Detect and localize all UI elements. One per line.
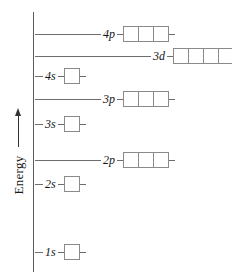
orbital-box [153, 91, 169, 107]
energy-level-4p: 4p [35, 25, 175, 43]
box-connector-right [169, 160, 175, 161]
orbital-box-group-3p [123, 91, 169, 107]
orbital-box [64, 176, 80, 192]
level-leader-line [35, 76, 43, 77]
box-connector-right [80, 124, 86, 125]
orbital-box [153, 26, 169, 42]
orbital-box [64, 68, 80, 84]
orbital-box-group-3s [64, 116, 80, 132]
level-label: 2p [101, 154, 117, 166]
orbital-box-group-3d [173, 48, 232, 64]
level-leader-line [35, 56, 151, 57]
orbital-energy-diagram: Energy 1s2s2p3s3p4s3d4p [0, 0, 232, 278]
energy-axis-label-group: Energy [5, 105, 33, 210]
orbital-box [173, 48, 189, 64]
level-label: 3p [101, 93, 117, 105]
box-connector-right [80, 76, 86, 77]
energy-level-4s: 4s [35, 67, 86, 85]
orbital-box [218, 48, 232, 64]
level-label: 2s [43, 178, 58, 190]
energy-level-3d: 3d [35, 47, 232, 65]
box-connector-right [169, 34, 175, 35]
level-label: 3s [43, 118, 58, 130]
orbital-box [188, 48, 204, 64]
orbital-box-group-2p [123, 152, 169, 168]
level-leader-line [35, 34, 101, 35]
orbital-box [64, 244, 80, 260]
level-leader-line [35, 160, 101, 161]
arrow-shaft [18, 115, 19, 147]
level-label: 1s [43, 246, 58, 258]
orbital-box-group-4s [64, 68, 80, 84]
orbital-box-group-4p [123, 26, 169, 42]
energy-axis-line [33, 12, 34, 272]
orbital-box-group-2s [64, 176, 80, 192]
level-leader-line [35, 252, 43, 253]
energy-level-2p: 2p [35, 151, 175, 169]
level-leader-line [35, 99, 101, 100]
orbital-box [138, 26, 154, 42]
orbital-box [64, 116, 80, 132]
energy-level-2s: 2s [35, 175, 86, 193]
energy-level-3s: 3s [35, 115, 86, 133]
orbital-box [123, 152, 139, 168]
orbital-box [138, 152, 154, 168]
energy-axis-label: Energy [11, 144, 27, 206]
box-connector-right [80, 252, 86, 253]
level-label: 3d [151, 50, 167, 62]
orbital-box [153, 152, 169, 168]
box-connector-right [80, 184, 86, 185]
orbital-box [123, 91, 139, 107]
level-label: 4p [101, 28, 117, 40]
orbital-box [138, 91, 154, 107]
orbital-box [203, 48, 219, 64]
level-leader-line [35, 124, 43, 125]
energy-level-3p: 3p [35, 90, 175, 108]
orbital-box [123, 26, 139, 42]
level-label: 4s [43, 70, 58, 82]
orbital-box-group-1s [64, 244, 80, 260]
energy-level-1s: 1s [35, 243, 86, 261]
level-leader-line [35, 184, 43, 185]
box-connector-right [169, 99, 175, 100]
